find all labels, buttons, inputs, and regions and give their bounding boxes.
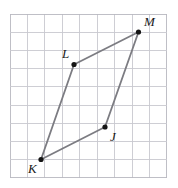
vertex-point-k [38, 157, 43, 162]
vertex-label-m: M [144, 15, 155, 28]
grid-layer [10, 14, 167, 178]
vertex-label-j: J [110, 130, 116, 143]
vertex-point-m [136, 29, 141, 34]
vertex-point-l [71, 62, 76, 67]
vertex-label-k: K [28, 162, 37, 175]
quadrilateral-shape [41, 32, 139, 160]
vertex-point-j [102, 124, 107, 129]
quadrilateral-outline [41, 32, 139, 160]
geometry-figure: MLJK [0, 0, 178, 188]
vertex-dots-layer [38, 29, 141, 162]
vertex-label-l: L [62, 47, 69, 60]
